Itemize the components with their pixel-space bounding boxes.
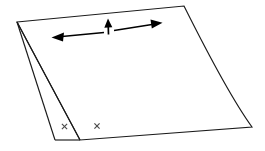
folded-sheet-figure <box>0 0 265 151</box>
diagram-canvas <box>0 0 265 151</box>
